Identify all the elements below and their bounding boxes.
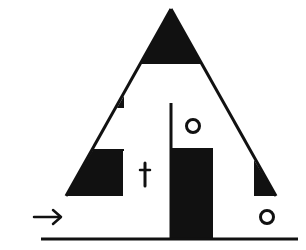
center-door-block (171, 148, 213, 240)
pyramid-diagram: o o t → (0, 0, 306, 250)
apex-fill (141, 9, 201, 64)
arrow-right-icon (34, 210, 61, 224)
left-base-block (66, 150, 123, 196)
upper-circle-marker (187, 120, 200, 133)
cross-mark-icon (140, 163, 150, 186)
lower-circle-marker (261, 211, 274, 224)
